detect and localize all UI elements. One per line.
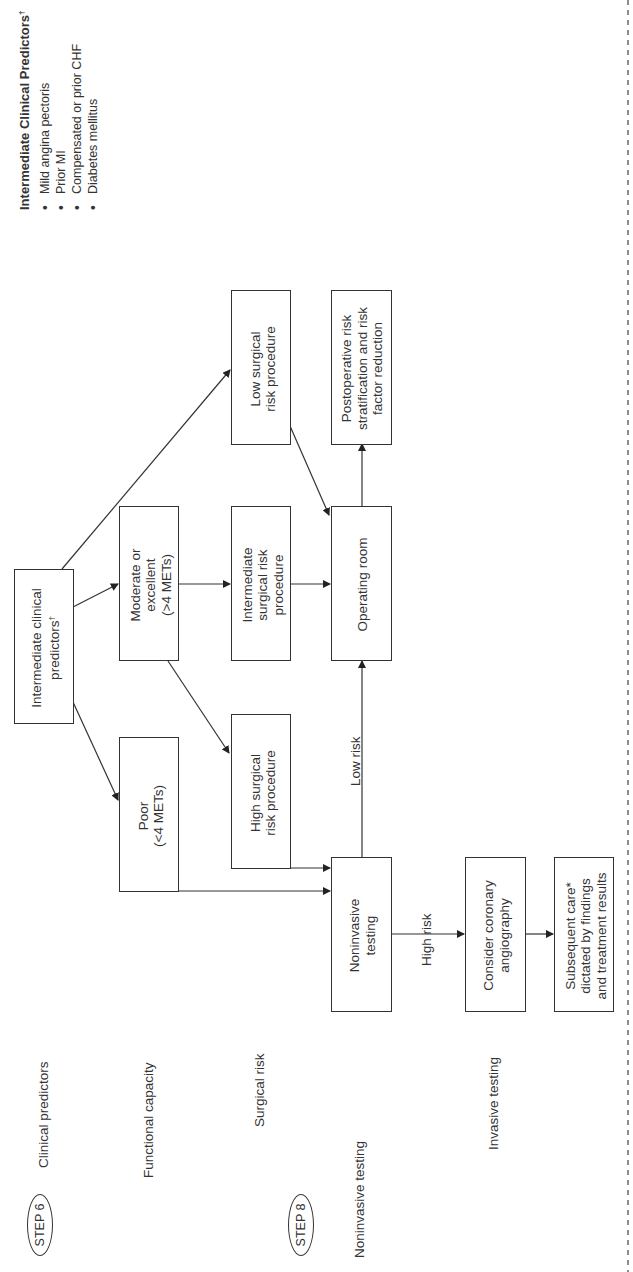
- node-operating-room: Operating room: [331, 506, 392, 661]
- node-subsequent-care: Subsequent care*dictated by findingsand …: [554, 857, 614, 1012]
- row-label-noninvasive-testing: Noninvasive testing: [352, 1141, 367, 1258]
- edge-label-high-risk: High risk: [419, 913, 434, 966]
- step-8-label: STEP 8: [294, 1204, 308, 1247]
- node-noninvasive-testing: Noninvasivetesting: [331, 857, 392, 1012]
- node-intermediate-surgical-risk: Intermediatesurgical riskprocedure: [231, 506, 291, 661]
- node-low-surgical-risk: Low surgicalrisk procedure: [231, 290, 291, 445]
- row-label-surgical-risk: Surgical risk: [252, 1053, 267, 1127]
- legend-item: Diabetes mellitus: [85, 0, 101, 210]
- node-coronary-angiography: Consider coronaryangiography: [465, 857, 526, 1012]
- node-moderate-excellent: Moderate orexcellent(>4 METs): [119, 506, 179, 661]
- legend-item: Prior MI: [53, 0, 69, 210]
- row-label-functional-capacity: Functional capacity: [141, 1062, 156, 1178]
- node-high-surgical-risk: High surgicalrisk procedure: [231, 714, 291, 869]
- edge-label-low-risk: Low risk: [348, 736, 363, 786]
- node-intermediate-clinical-predictors: Intermediate clinicalpredictors†: [14, 569, 74, 724]
- node-poor-functional-capacity: Poor(<4 METs): [119, 737, 179, 892]
- legend-title: Intermediate Clinical Predictors†: [14, 0, 33, 210]
- step-6-badge: STEP 6: [27, 1194, 53, 1256]
- legend-item: Compensated or prior CHF: [69, 0, 85, 210]
- step-8-badge: STEP 8: [288, 1194, 314, 1256]
- row-label-clinical-predictors: Clinical predictors: [36, 1061, 51, 1168]
- legend-list: Mild angina pectoris Prior MI Compensate…: [37, 0, 101, 210]
- legend-item: Mild angina pectoris: [37, 0, 53, 210]
- step-6-label: STEP 6: [33, 1204, 47, 1247]
- row-label-invasive-testing: Invasive testing: [486, 1057, 501, 1150]
- legend-intermediate-predictors: Intermediate Clinical Predictors† Mild a…: [14, 0, 101, 210]
- flowchart-canvas: Intermediate Clinical Predictors† Mild a…: [0, 0, 633, 1272]
- node-postoperative-risk: Postoperative riskstratification and ris…: [331, 290, 392, 445]
